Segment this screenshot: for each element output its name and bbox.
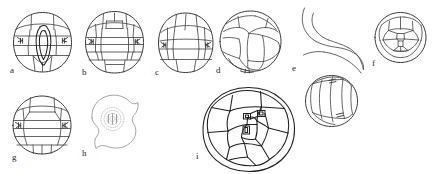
figure-label-d: d [216,66,221,75]
panel-f-drawing [375,13,426,63]
panel-e-drawing [302,8,363,127]
figure-label-a: a [10,66,14,75]
panel-i-drawing [203,88,295,172]
figure-label-i: i [196,152,199,161]
panel-b-drawing [86,12,144,74]
figure-plate: a b c d e f g h i [0,0,435,174]
figure-label-c: c [155,68,159,77]
figure-label-e: e [292,64,296,73]
panel-d-drawing [220,11,281,73]
panel-c-drawing [159,13,214,73]
panel-g-drawing [13,96,71,154]
figure-label-b: b [82,68,87,77]
panel-h-drawing [92,95,138,148]
figure-label-f: f [372,59,375,68]
figure-label-h: h [82,149,87,158]
panel-a-drawing [14,13,72,73]
plate-linework [0,0,435,174]
figure-label-g: g [12,153,17,162]
